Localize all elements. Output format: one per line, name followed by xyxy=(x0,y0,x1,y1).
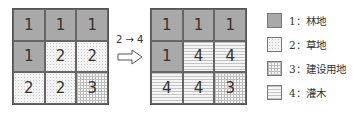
legend-label: 4：灌木 xyxy=(289,85,326,100)
grid-cell: 4 xyxy=(151,72,183,104)
legend-item-grassland: 2：草地 xyxy=(267,32,346,56)
after-grid: 1 1 1 1 4 4 4 4 3 xyxy=(150,8,247,105)
grid-cell: 4 xyxy=(183,72,215,104)
grid-cell: 4 xyxy=(214,41,246,73)
grid-cell: 3 xyxy=(214,72,246,104)
legend-label: 1：林地 xyxy=(289,13,326,28)
grid-cell: 1 xyxy=(13,9,45,41)
grid-cell: 1 xyxy=(183,9,215,41)
shrub-swatch-icon xyxy=(267,85,282,100)
transition-label: 2 → 4 xyxy=(116,34,143,45)
legend-item-forest: 1：林地 xyxy=(267,8,346,32)
legend-item-construction: 3：建设用地 xyxy=(267,56,346,80)
grid-cell: 1 xyxy=(76,9,108,41)
legend-label: 3：建设用地 xyxy=(289,61,346,76)
grid-cell: 4 xyxy=(183,41,215,73)
grid-cell: 1 xyxy=(151,9,183,41)
grid-cell: 3 xyxy=(76,72,108,104)
grid-cell: 1 xyxy=(13,41,45,73)
legend-item-shrub: 4：灌木 xyxy=(267,80,346,104)
grid-cell: 2 xyxy=(13,72,45,104)
grid-cell: 2 xyxy=(45,72,77,104)
legend-label: 2：草地 xyxy=(289,37,326,52)
grid-cell: 1 xyxy=(45,9,77,41)
before-grid: 1 1 1 1 2 2 2 2 3 xyxy=(12,8,109,105)
grid-cell: 1 xyxy=(151,41,183,73)
grid-cell: 2 xyxy=(76,41,108,73)
grid-cell: 2 xyxy=(45,41,77,73)
construction-swatch-icon xyxy=(267,61,282,76)
forest-swatch-icon xyxy=(267,13,282,28)
hollow-right-arrow-icon xyxy=(117,49,143,65)
grassland-swatch-icon xyxy=(267,37,282,52)
grid-cell: 1 xyxy=(214,9,246,41)
legend: 1：林地 2：草地 3：建设用地 4：灌木 xyxy=(267,8,346,104)
